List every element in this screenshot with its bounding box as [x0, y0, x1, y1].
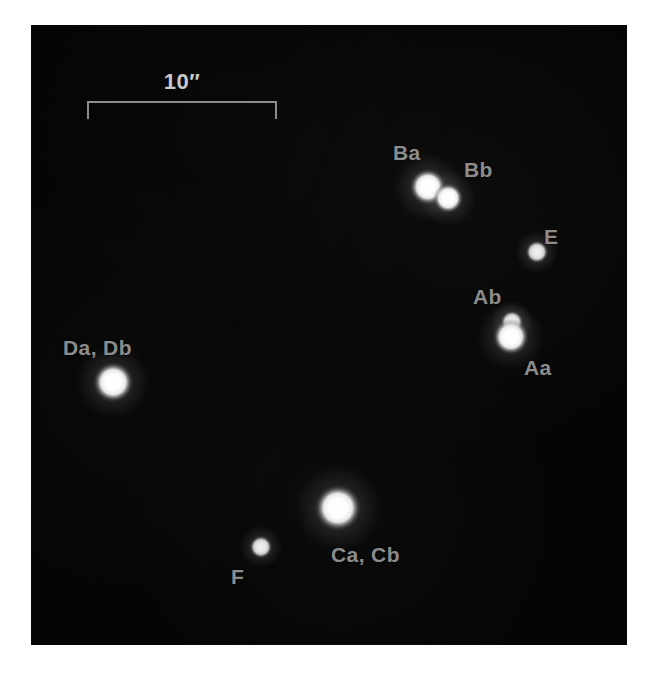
- star-label: Aa: [524, 357, 552, 378]
- star-label: Da, Db: [63, 337, 132, 358]
- sky-image-panel: 10″ BaBbEAbAaDa, DbCa, CbF: [31, 25, 627, 645]
- star-label: F: [231, 566, 244, 587]
- star-source: [433, 183, 463, 213]
- star-label: Ba: [393, 142, 421, 163]
- star-label: E: [544, 226, 558, 247]
- star-source: [315, 485, 361, 531]
- figure-root: 10″ BaBbEAbAaDa, DbCa, CbF: [0, 0, 649, 676]
- star-source: [249, 535, 272, 558]
- star-source: [493, 319, 529, 355]
- star-label: Ab: [473, 286, 502, 307]
- scale-bar: [87, 101, 277, 119]
- star-source: [93, 362, 133, 402]
- scale-bar-label: 10″: [87, 71, 277, 93]
- star-label: Ca, Cb: [331, 544, 400, 565]
- star-label: Bb: [464, 159, 493, 180]
